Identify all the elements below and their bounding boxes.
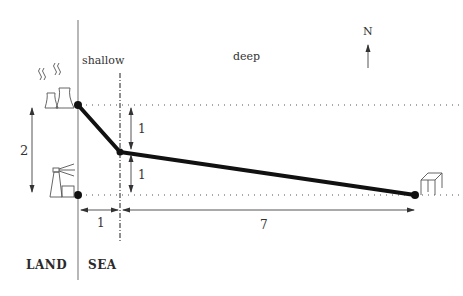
lighthouse-icon (50, 164, 75, 197)
land-label: LAND (26, 258, 67, 272)
node-platform (411, 191, 419, 199)
upper-height-label: 1 (138, 122, 146, 136)
total-height-label: 2 (20, 143, 28, 158)
shallow-label: shallow (82, 54, 125, 67)
cable-path (78, 105, 415, 195)
deep-width-label: 7 (260, 218, 268, 232)
offshore-platform-icon (421, 173, 442, 195)
lower-height-label: 1 (138, 168, 146, 182)
node-power-plant (74, 101, 82, 109)
sea-label: SEA (88, 258, 117, 272)
shallow-width-label: 1 (97, 216, 105, 230)
node-junction (117, 149, 124, 156)
node-lighthouse (74, 191, 82, 199)
north-label: N (363, 25, 373, 38)
deep-label: deep (233, 50, 260, 63)
power-plant-icon (39, 63, 75, 108)
cable-route-diagram: N shallow deep 2 1 1 1 7 LAND SEA (0, 0, 463, 296)
